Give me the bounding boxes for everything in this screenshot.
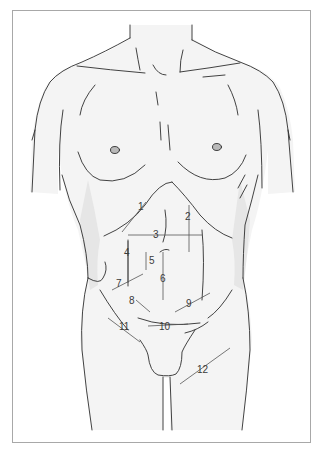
incision-label-5: 5 <box>149 256 155 266</box>
incision-label-1: 1 <box>138 202 144 212</box>
incision-label-8: 8 <box>129 296 135 306</box>
incision-label-11: 11 <box>119 322 129 332</box>
incision-label-12: 12 <box>197 365 208 375</box>
body-fill <box>30 25 295 430</box>
incision-label-9: 9 <box>186 299 192 309</box>
incision-label-4: 4 <box>124 248 130 258</box>
incision-label-3: 3 <box>153 230 159 240</box>
torso-illustration <box>0 0 323 453</box>
incision-label-6: 6 <box>160 274 166 284</box>
left-nipple <box>111 147 120 154</box>
incision-label-7: 7 <box>116 279 122 289</box>
incision-label-10: 10 <box>159 322 170 332</box>
incision-label-2: 2 <box>185 212 191 222</box>
right-nipple <box>213 144 222 151</box>
